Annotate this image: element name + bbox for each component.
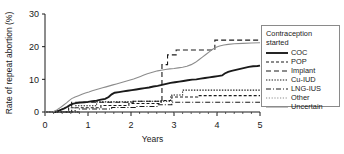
legend-swatch-icon xyxy=(266,103,288,111)
legend-entry-pop: POP xyxy=(266,57,339,66)
x-tick-label: 4 xyxy=(214,120,219,130)
legend-entry-label: POP xyxy=(291,57,307,66)
legend-swatch-icon xyxy=(266,58,288,66)
legend-entry-coc: COC xyxy=(266,48,339,57)
y-tick-label: 10 xyxy=(29,75,39,85)
legend-entry-label: COC xyxy=(291,48,307,57)
series-line-cu-iud xyxy=(45,90,260,112)
y-axis-title: Rate of repeat abortion (%) xyxy=(4,12,14,115)
legend-entry-label: Uncertain xyxy=(291,102,323,111)
axis-labels-group: 0102030012345YearsRate of repeat abortio… xyxy=(4,9,263,144)
legend-entry-implant: Implant xyxy=(266,66,339,75)
x-tick-label: 3 xyxy=(171,120,176,130)
legend-entry-label: LNG-IUS xyxy=(291,84,321,93)
legend-entry-label: Cu-IUD xyxy=(291,75,316,84)
legend-swatch-icon xyxy=(266,76,288,84)
x-tick-label: 1 xyxy=(85,120,90,130)
legend-title-line1: Contraception xyxy=(266,29,339,38)
legend-swatch-icon xyxy=(266,49,288,57)
y-tick-label: 0 xyxy=(34,107,39,117)
legend-swatch-icon xyxy=(266,94,288,102)
legend-entry-label: Other xyxy=(291,93,309,102)
legend-entry-cu-iud: Cu-IUD xyxy=(266,75,339,84)
y-tick-label: 20 xyxy=(29,42,39,52)
x-tick-label: 2 xyxy=(128,120,133,130)
legend-entry-lng-ius: LNG-IUS xyxy=(266,84,339,93)
legend-entry-list: COCPOPImplantCu-IUDLNG-IUSOtherUncertain xyxy=(266,48,339,111)
x-tick-label: 0 xyxy=(42,120,47,130)
legend-title-line2: started xyxy=(266,38,339,47)
chart-legend: Contraception started COCPOPImplantCu-IU… xyxy=(261,25,340,107)
figure-container: 0102030012345YearsRate of repeat abortio… xyxy=(0,0,344,154)
y-tick-label: 30 xyxy=(29,9,39,19)
legend-swatch-icon xyxy=(266,67,288,75)
x-tick-label: 5 xyxy=(257,120,262,130)
legend-entry-uncertain: Uncertain xyxy=(266,102,339,111)
legend-entry-other: Other xyxy=(266,93,339,102)
legend-swatch-icon xyxy=(266,85,288,93)
data-series-group xyxy=(45,40,260,112)
x-axis-title: Years xyxy=(142,134,163,144)
legend-entry-label: Implant xyxy=(291,66,315,75)
